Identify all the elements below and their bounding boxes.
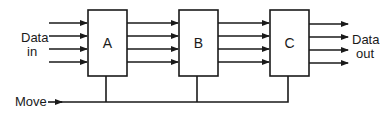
pipeline-diagram: Data in A B C D	[0, 0, 392, 116]
bus-a-to-b-arrows	[127, 23, 178, 62]
move-control-line	[48, 76, 288, 102]
data-out-label-line1: Data	[352, 32, 380, 47]
move-label: Move	[15, 94, 47, 109]
input-bus-arrows	[49, 23, 87, 62]
stage-box-c: C	[270, 10, 309, 76]
stage-b-label: B	[194, 35, 203, 51]
stage-box-b: B	[179, 10, 218, 76]
stage-box-a: A	[88, 10, 127, 76]
output-bus-arrows	[309, 24, 348, 63]
stage-a-label: A	[103, 35, 113, 51]
bus-b-to-c-arrows	[218, 23, 269, 62]
data-in-label-line2: in	[27, 44, 37, 59]
stage-c-label: C	[284, 35, 294, 51]
data-in-label-line1: Data	[21, 30, 49, 45]
data-out-label-line2: out	[356, 46, 374, 61]
